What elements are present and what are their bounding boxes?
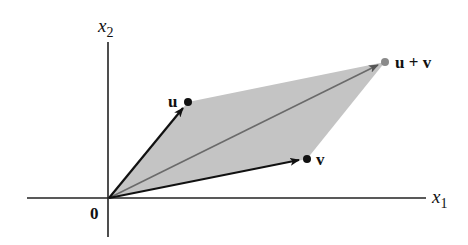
x1-axis-label: x1 <box>431 186 447 211</box>
origin-label: 0 <box>90 204 99 223</box>
point-u-plus-v <box>381 58 389 66</box>
x2-axis-label: x2 <box>97 15 113 40</box>
point-v <box>303 155 311 163</box>
label-v: v <box>316 150 325 169</box>
label-u-plus-v: u + v <box>395 53 432 72</box>
point-u <box>184 98 192 106</box>
vector-u-plus-v <box>109 65 378 198</box>
label-u: u <box>168 92 177 111</box>
vector-diagram: x2 x1 0 u v u + v <box>0 0 468 245</box>
